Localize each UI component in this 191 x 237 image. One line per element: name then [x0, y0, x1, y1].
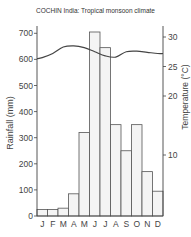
y-tick-label: 600 — [19, 54, 33, 64]
y-tick-label: 500 — [19, 81, 33, 91]
rainfall-bar — [69, 194, 80, 216]
month-label: J — [93, 219, 97, 229]
rainfall-bar — [58, 208, 69, 216]
month-label: J — [103, 219, 107, 229]
rainfall-bar — [100, 48, 111, 216]
rainfall-bar — [37, 209, 48, 216]
month-label: M — [81, 219, 88, 229]
rainfall-bar — [111, 125, 122, 216]
y2-tick-label: 30 — [168, 32, 178, 42]
y2-tick-label: 25 — [168, 62, 178, 72]
y-tick-label: 400 — [19, 107, 33, 117]
y-tick-label: 200 — [19, 159, 33, 169]
month-label: A — [71, 219, 77, 229]
climate-chart: 010020030040050060070010202530JFMAMJJASO… — [0, 0, 191, 237]
month-label: S — [123, 219, 129, 229]
y-tick-label: 0 — [28, 211, 33, 221]
month-label: A — [113, 219, 119, 229]
y2-tick-label: 20 — [168, 91, 178, 101]
rainfall-bar — [132, 125, 143, 216]
rainfall-bar — [90, 32, 101, 216]
rainfall-bar — [142, 172, 153, 216]
month-label: M — [60, 219, 67, 229]
rainfall-bar — [153, 191, 164, 216]
rainfall-bar — [121, 151, 132, 216]
y-tick-label: 300 — [19, 133, 33, 143]
rainfall-bar — [48, 209, 59, 216]
month-label: O — [133, 219, 140, 229]
month-label: F — [50, 219, 55, 229]
month-label: D — [155, 219, 161, 229]
y-tick-label: 700 — [19, 28, 33, 38]
month-label: N — [144, 219, 150, 229]
month-label: J — [40, 219, 44, 229]
y-tick-label: 100 — [19, 185, 33, 195]
rainfall-bar — [79, 132, 90, 216]
y2-tick-label: 10 — [168, 150, 178, 160]
